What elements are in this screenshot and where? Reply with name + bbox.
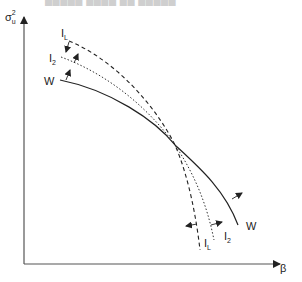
x-axis-label: β <box>280 262 286 274</box>
indifference-curves-diagram: σu2 β W W I2 I2 IL IL <box>0 0 302 282</box>
curve-il-label-start: IL <box>61 27 68 41</box>
curve-i2-label-end: I2 <box>224 230 231 244</box>
curve-il <box>66 41 200 250</box>
curve-w-label-start: W <box>44 75 55 87</box>
curve-i2 <box>61 54 222 240</box>
curve-il-label-end: IL <box>204 237 211 251</box>
curve-w <box>60 70 242 225</box>
curve-i2-label-start: I2 <box>49 52 56 66</box>
y-axis-label: σu2 <box>5 9 16 25</box>
curve-w-label-end: W <box>246 220 257 232</box>
